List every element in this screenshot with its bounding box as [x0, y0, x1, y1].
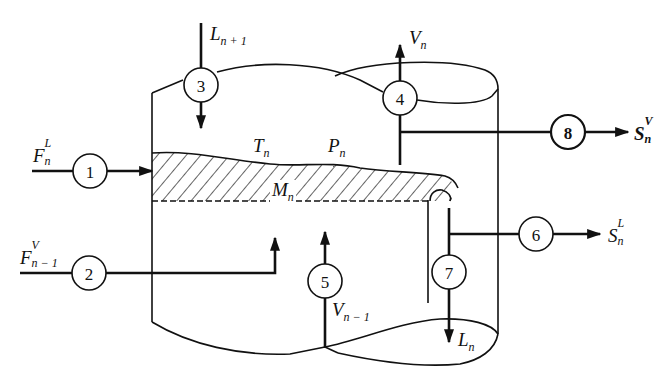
svg-text:5: 5 — [321, 273, 330, 292]
node-5: 5 — [308, 264, 342, 298]
node-3: 3 — [184, 68, 218, 102]
node-7: 7 — [432, 255, 466, 289]
label-T-n: Tn — [253, 136, 270, 159]
label-F-n-L: FLn — [33, 146, 54, 165]
node-6: 6 — [519, 217, 553, 251]
label-L-n: Ln — [458, 330, 475, 353]
svg-text:1: 1 — [86, 163, 95, 182]
label-L-n-plus-1: Ln + 1 — [210, 24, 247, 47]
stage-diagram: 1 2 3 4 5 6 7 8 Ln + 1 Vn FLn FVn − 1 Tn… — [0, 0, 670, 386]
svg-text:6: 6 — [532, 226, 541, 245]
node-1: 1 — [73, 154, 107, 188]
svg-text:7: 7 — [445, 264, 454, 283]
node-8: 8 — [551, 115, 585, 149]
node-4: 4 — [383, 81, 417, 115]
label-S-n-L: SLn — [608, 226, 622, 245]
label-M-n: Mn — [270, 180, 296, 203]
label-F-n-minus-1-V: FVn − 1 — [20, 248, 65, 267]
label-P-n: Pn — [328, 136, 346, 159]
svg-text:3: 3 — [197, 77, 206, 96]
svg-text:4: 4 — [396, 90, 405, 109]
svg-text:8: 8 — [564, 124, 573, 143]
label-V-n-minus-1: Vn − 1 — [332, 300, 370, 323]
node-2: 2 — [72, 256, 106, 290]
diagram-canvas: 1 2 3 4 5 6 7 8 — [0, 0, 670, 386]
liquid-holdup — [152, 145, 458, 205]
label-V-n: Vn — [409, 28, 427, 51]
svg-text:2: 2 — [85, 265, 94, 284]
label-S-n-V: SVn — [634, 124, 649, 143]
